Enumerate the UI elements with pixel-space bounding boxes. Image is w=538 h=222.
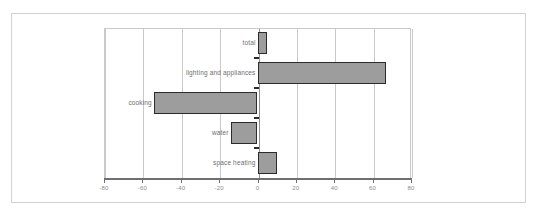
x-tick bbox=[258, 178, 259, 183]
bar-category-label: space heating bbox=[0, 159, 256, 166]
gridline bbox=[335, 29, 336, 178]
x-tick-label: -40 bbox=[176, 185, 185, 191]
x-tick-label: 60 bbox=[369, 185, 376, 191]
x-tick-label: -20 bbox=[214, 185, 223, 191]
x-tick bbox=[296, 178, 297, 183]
bar bbox=[231, 122, 258, 144]
x-tick bbox=[219, 178, 220, 183]
axis-notch bbox=[254, 147, 259, 149]
x-tick-label: 20 bbox=[292, 185, 299, 191]
x-tick-label: -60 bbox=[138, 185, 147, 191]
axis-notch bbox=[254, 57, 259, 59]
x-tick-label: 80 bbox=[407, 185, 414, 191]
x-tick-label: 40 bbox=[331, 185, 338, 191]
bar bbox=[258, 32, 268, 54]
gridline bbox=[412, 29, 413, 178]
bar-category-label: cooking bbox=[0, 99, 152, 106]
x-tick bbox=[411, 178, 412, 183]
x-tick bbox=[181, 178, 182, 183]
x-tick-label: -80 bbox=[99, 185, 108, 191]
x-tick bbox=[334, 178, 335, 183]
x-tick-label: 0 bbox=[256, 185, 260, 191]
bar bbox=[258, 62, 387, 84]
axis-notch bbox=[254, 87, 259, 89]
bar-category-label: lighting and appliances bbox=[0, 69, 256, 76]
bar-category-label: water bbox=[0, 129, 229, 136]
figure-container: -80-60-40-20020406080 totallighting and … bbox=[0, 0, 538, 222]
bar-category-label: total bbox=[0, 39, 256, 46]
x-tick bbox=[373, 178, 374, 183]
axis-notch bbox=[254, 117, 259, 119]
bar bbox=[258, 152, 277, 174]
x-tick bbox=[104, 178, 105, 183]
gridline bbox=[374, 29, 375, 178]
gridline bbox=[297, 29, 298, 178]
bar bbox=[154, 92, 258, 114]
x-tick bbox=[142, 178, 143, 183]
